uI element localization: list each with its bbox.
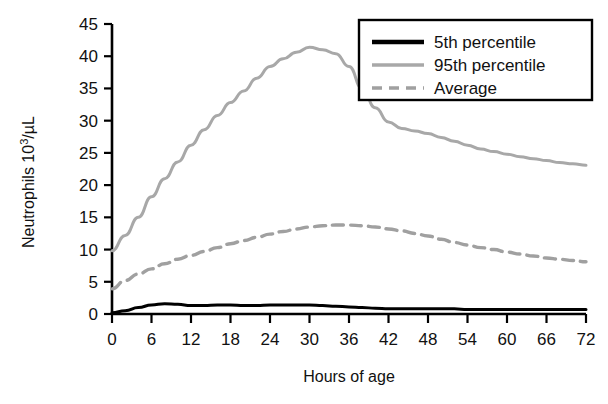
chart-canvas: 051015202530354045 061218243036424854606… (0, 0, 608, 404)
y-tick-label: 5 (89, 273, 98, 292)
x-tick-label: 24 (261, 330, 280, 349)
x-tick-label: 6 (147, 330, 156, 349)
y-tick-label: 20 (79, 176, 98, 195)
x-tick-label: 42 (379, 330, 398, 349)
x-tick-label: 48 (419, 330, 438, 349)
x-tick-label: 54 (458, 330, 477, 349)
y-tick-label: 45 (79, 15, 98, 34)
legend-label-average: Average (434, 79, 497, 98)
y-tick-label: 30 (79, 112, 98, 131)
x-tick-label: 0 (107, 330, 116, 349)
x-axis-title: Hours of age (303, 368, 395, 385)
chart-legend: 5th percentile 95th percentile Average (359, 20, 592, 100)
x-tick-label: 60 (498, 330, 517, 349)
y-tick-label: 35 (79, 79, 98, 98)
y-tick-label: 0 (89, 305, 98, 324)
neutrophil-reference-chart: 051015202530354045 061218243036424854606… (0, 0, 608, 404)
x-tick-label: 30 (300, 330, 319, 349)
x-tick-label: 72 (577, 330, 596, 349)
y-tick-label: 15 (79, 208, 98, 227)
legend-label-5th-percentile: 5th percentile (434, 33, 536, 52)
x-tick-label: 36 (340, 330, 359, 349)
y-tick-label: 10 (79, 241, 98, 260)
y-tick-label: 25 (79, 144, 98, 163)
x-tick-label: 12 (182, 330, 201, 349)
y-axis-title: Neutrophils 103/µL (18, 116, 37, 248)
x-tick-label: 18 (221, 330, 240, 349)
y-tick-label: 40 (79, 47, 98, 66)
x-tick-label: 66 (537, 330, 556, 349)
legend-label-95th-percentile: 95th percentile (434, 56, 546, 75)
svg-text:Neutrophils 103/µL: Neutrophils 103/µL (18, 116, 37, 248)
